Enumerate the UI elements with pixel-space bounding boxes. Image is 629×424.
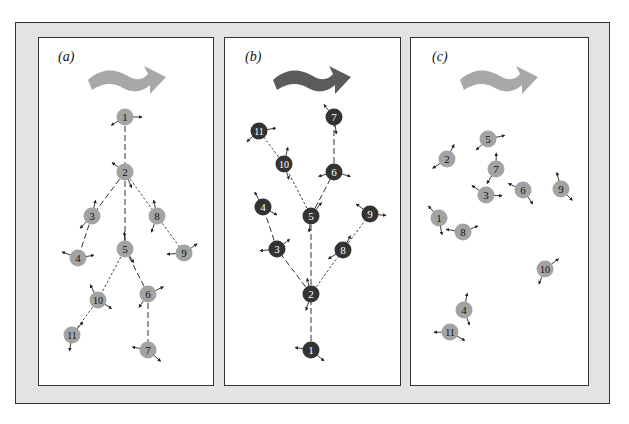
panel-a-label: (a) xyxy=(58,49,74,65)
panel-c xyxy=(410,37,589,386)
panel-b-label: (b) xyxy=(245,49,261,65)
panel-c-label: (c) xyxy=(432,49,448,65)
panel-b xyxy=(224,37,401,386)
panel-a xyxy=(38,37,214,386)
